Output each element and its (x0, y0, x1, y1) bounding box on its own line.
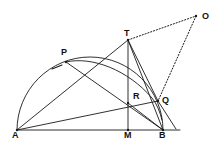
vertex-dot-p (65, 61, 67, 63)
segment-AT-through-P (17, 40, 128, 130)
segment-OQ-dotted (158, 16, 196, 101)
semicircle-on-AB (17, 57, 163, 130)
segment-AQ-through-R (17, 101, 158, 130)
vertex-dot-o (195, 15, 197, 17)
vertex-label-m: M (124, 131, 132, 140)
vertex-label-a: A (12, 131, 19, 140)
vertex-label-q: Q (162, 96, 169, 105)
geometry-canvas (0, 0, 214, 147)
vertex-label-o: O (202, 12, 209, 21)
vertex-label-r: R (133, 92, 140, 101)
point-group (16, 15, 197, 131)
segment-PB (66, 62, 163, 130)
vertex-label-t: T (124, 29, 130, 38)
vertex-label-p: P (61, 48, 67, 57)
geometry-figure: APTORQMB (0, 0, 214, 147)
segment-TO-dotted (128, 16, 196, 40)
vertex-dot-q (157, 100, 159, 102)
vertex-dot-r (127, 102, 129, 104)
arc-group (17, 57, 163, 130)
vertex-label-b: B (159, 131, 166, 140)
vertex-dot-t (127, 39, 129, 41)
